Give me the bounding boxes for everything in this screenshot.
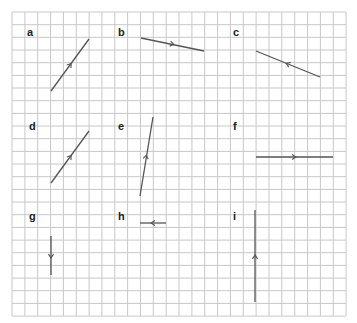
panel-label-f: f <box>233 121 237 132</box>
panel-label-d: d <box>29 121 36 132</box>
grid-diagram <box>0 0 357 323</box>
panel-label-g: g <box>29 211 36 222</box>
vector-segment-a <box>51 39 89 91</box>
vector-segments <box>48 38 333 302</box>
vector-segment-c <box>256 51 320 77</box>
panel-label-a: a <box>27 27 33 38</box>
grid-lines <box>12 12 346 316</box>
panel-label-h: h <box>118 211 125 222</box>
panel-label-b: b <box>118 27 125 38</box>
panel-label-c: c <box>233 27 239 38</box>
panel-label-i: i <box>233 211 236 222</box>
panel-label-e: e <box>118 121 124 132</box>
